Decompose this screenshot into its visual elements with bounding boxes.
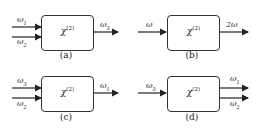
panel-d: χ(2) ω3 ω1 ω2 (d) [130, 65, 260, 130]
panel-a: χ(2) ω1 ω2 ω3 (a) [0, 0, 130, 65]
chi2-label: χ(2) [167, 25, 220, 36]
input-label: ω2 [17, 99, 27, 110]
input-label: ω3 [17, 76, 27, 87]
panel-b: χ(2) ω 2ω (b) [130, 0, 260, 65]
output-label: ω3 [100, 20, 110, 31]
panel-caption: (a) [51, 50, 81, 60]
output-label: ω1 [230, 74, 240, 85]
panel-caption: (b) [177, 50, 207, 60]
chi2-label: χ(2) [167, 86, 220, 97]
panel-c: χ(2) ω3 ω2 ω1 (c) [0, 65, 130, 130]
input-label: ω2 [17, 37, 27, 48]
chi2-label: χ(2) [41, 86, 94, 97]
chi2-label: χ(2) [41, 25, 94, 36]
panel-caption: (d) [177, 112, 207, 122]
panel-caption: (c) [51, 112, 81, 122]
input-label: ω1 [17, 15, 27, 26]
output-label: ω2 [230, 99, 240, 110]
output-label: 2ω [226, 20, 238, 31]
output-label: ω1 [100, 81, 110, 92]
input-label: ω [146, 20, 153, 31]
input-label: ω3 [146, 81, 156, 92]
